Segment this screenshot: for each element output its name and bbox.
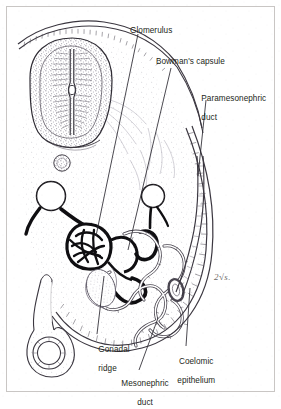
pencil-annotation: 2√s. bbox=[214, 272, 231, 282]
dorsal-aorta-right bbox=[142, 185, 165, 208]
label-paramesonephric-duct-line1: Paramesonephric bbox=[201, 94, 266, 103]
glomerulus-tuft bbox=[67, 224, 111, 269]
notochord bbox=[54, 155, 70, 171]
label-paramesonephric-duct: Paramesonephric duct bbox=[192, 85, 266, 131]
gut-tube bbox=[27, 328, 74, 377]
label-mesonephric-duct-line2: duct bbox=[137, 398, 153, 407]
label-coelomic-epithelium-line2: epithelium bbox=[177, 376, 215, 385]
dorsal-aorta-left bbox=[37, 182, 66, 211]
label-bowmans-capsule: Bowman's capsule bbox=[156, 57, 225, 66]
label-mesonephric-duct-line1: Mesonephric bbox=[121, 379, 168, 388]
label-coelomic-epithelium: Coelomic epithelium bbox=[168, 348, 215, 394]
label-paramesonephric-duct-line2: duct bbox=[201, 113, 217, 122]
label-coelomic-epithelium-line1: Coelomic bbox=[179, 357, 214, 366]
label-glomerulus: Glomerulus bbox=[130, 26, 172, 35]
label-gonadal-ridge-line1: Gonadal bbox=[98, 345, 129, 354]
neural-tube bbox=[30, 38, 112, 150]
label-mesonephric-duct: Mesonephric duct bbox=[112, 370, 169, 409]
dorsal-mesentery bbox=[33, 275, 54, 330]
